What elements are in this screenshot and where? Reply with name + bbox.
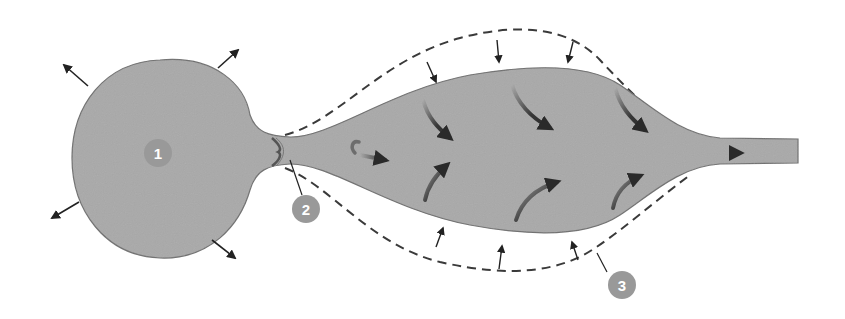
callout-label-3: 3	[618, 277, 626, 294]
organ-body	[72, 59, 798, 258]
inward-arrow-icons-bottom	[436, 228, 578, 269]
diagram-svg: 1 2 3	[0, 0, 845, 319]
callout-1: 1	[144, 139, 172, 167]
diagram-canvas: 1 2 3	[0, 0, 845, 319]
callout-label-1: 1	[154, 145, 162, 162]
leader-line-3	[597, 253, 607, 272]
callout-2: 2	[292, 195, 320, 223]
callout-3: 3	[608, 271, 636, 299]
callout-label-2: 2	[302, 201, 310, 218]
